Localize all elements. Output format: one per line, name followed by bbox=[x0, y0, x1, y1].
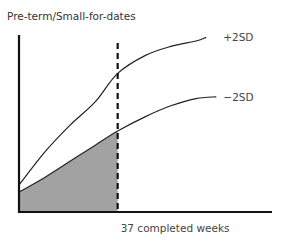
annotation-37-completed-weeks: 37 completed weeks bbox=[121, 222, 230, 234]
growth-chart: Pre-term/Small-for-dates +2SD −2SD 37 co… bbox=[0, 0, 283, 243]
series-label-minus-2sd: −2SD bbox=[223, 91, 253, 103]
series-label-plus-2sd: +2SD bbox=[223, 31, 253, 43]
chart-title: Pre-term/Small-for-dates bbox=[7, 10, 136, 22]
shaded-region-preterm-small-for-dates bbox=[19, 131, 118, 212]
